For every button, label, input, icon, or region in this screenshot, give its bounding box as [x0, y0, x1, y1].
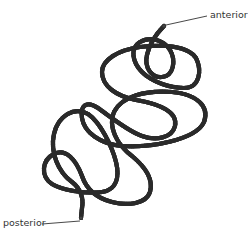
posterior-leader-line [42, 221, 80, 224]
worm-drawing [0, 0, 248, 234]
anterior-label: anterior [210, 10, 248, 20]
posterior-label: posterior [3, 218, 46, 228]
anterior-tip [162, 24, 165, 27]
posterior-tip [79, 216, 82, 219]
worm-figure: anterior posterior [0, 0, 248, 234]
anterior-leader-line [166, 16, 207, 25]
worm-body [44, 24, 205, 219]
worm-texture [44, 26, 205, 218]
